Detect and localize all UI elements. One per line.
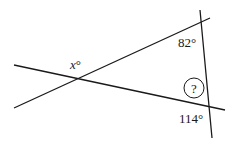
angle-114-label: 114° <box>179 111 203 126</box>
angle-82-label: 82° <box>178 35 196 50</box>
line-a <box>14 18 210 108</box>
x-angle-label: x° <box>69 57 81 72</box>
unknown-angle-label: ? <box>191 81 197 96</box>
angle-diagram: x° 82° ? 114° <box>0 0 237 146</box>
degree-symbol: ° <box>76 57 81 72</box>
